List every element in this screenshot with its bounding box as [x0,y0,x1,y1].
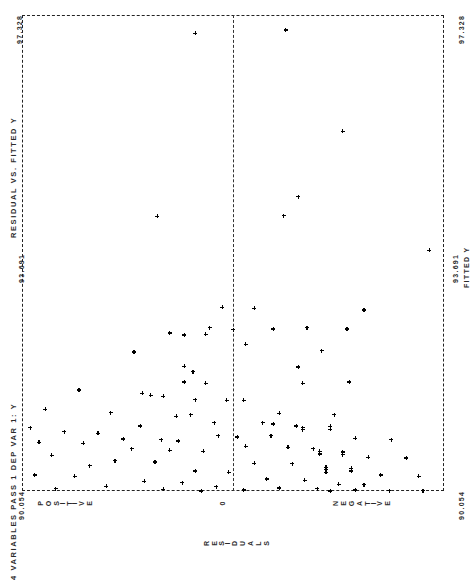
data-point [301,428,305,432]
data-point [341,129,345,133]
data-point [189,413,193,417]
data-point [271,327,275,331]
data-point [427,248,431,252]
scatter-plot-area [22,15,444,491]
data-point [168,448,172,452]
data-point [216,434,220,438]
data-point [362,483,366,487]
data-point [193,31,197,35]
data-point [252,461,256,465]
data-point [269,434,273,438]
data-point [212,421,216,425]
axis-char: D [231,541,238,546]
axis-char: S [262,541,269,546]
data-point [104,484,108,488]
data-point [96,431,100,435]
axis-char: A [356,501,363,506]
right-label-column: 97.328 93.691 FITTED Y 90.054 [444,0,472,584]
data-point [121,437,125,441]
data-point [387,489,391,493]
axis-char: E [211,541,218,546]
data-point [54,487,58,491]
data-point [320,349,324,353]
axis-char: 0 [219,502,226,506]
data-point [62,430,66,434]
data-point [282,214,286,218]
data-point [277,486,281,490]
data-point [180,481,184,485]
axis-char: V [78,501,85,506]
axis-char: G [348,501,355,506]
data-point [290,462,294,466]
data-point [220,305,224,309]
data-point [37,440,41,444]
data-point [214,485,218,489]
data-point [161,394,165,398]
data-point [286,445,290,449]
data-point [244,444,248,448]
data-point [161,487,165,491]
data-point [227,470,231,474]
data-point [337,482,341,486]
data-point [347,380,351,384]
data-point [176,439,180,443]
data-point [153,460,157,464]
data-point [77,388,81,392]
data-point [182,364,186,368]
data-point [138,424,142,428]
data-point [242,488,246,492]
data-point [315,487,319,491]
data-point [142,479,146,483]
data-point [345,327,349,331]
zero-reference-line [233,15,234,491]
axis-right-tick-max: 97.328 [458,15,465,44]
data-point [362,308,366,312]
axis-char: R [203,541,210,546]
data-point [318,452,322,456]
data-point [305,326,309,330]
axis-bottom-center-word: 0 [221,500,225,507]
data-point [324,470,328,474]
data-point [149,393,153,397]
data-point [199,489,203,493]
data-point [204,332,208,336]
axis-right-tick-mid: 93.691 [452,254,459,283]
axis-char: N [332,501,339,506]
report-header: 4 VARIABLES PASS 1 DEP VAR 1: Y [9,403,18,580]
data-point [328,427,332,431]
left-label-column: 97.328 RESIDUAL VS. FITTED Y 93.691 4 VA… [0,0,22,584]
data-point [404,456,408,460]
data-point [88,464,92,468]
data-point [417,474,421,478]
axis-right-tick-min: 90.054 [458,491,465,520]
data-point [265,477,269,481]
data-point [261,421,265,425]
axis-right-label: FITTED Y [463,247,470,288]
data-point [349,469,353,473]
data-point [303,478,307,482]
data-point [341,453,345,457]
data-point [182,333,186,337]
data-point [113,459,117,463]
data-point [28,426,32,430]
data-point [332,413,336,417]
data-point [43,407,47,411]
data-point [140,391,144,395]
data-point [109,411,113,415]
axis-char: E [340,501,347,506]
data-point [33,473,37,477]
axis-char: O [45,501,52,506]
data-point [353,436,357,440]
data-point [155,214,159,218]
data-point [204,381,208,385]
data-point [284,28,288,32]
data-point [73,474,77,478]
axis-char: A [247,541,254,546]
data-point [191,370,195,374]
data-point [294,424,298,428]
axis-left-tick-min: 90.054 [18,491,25,520]
data-point [182,380,186,384]
axis-bottom-right-word: NEGATIVE [333,500,390,507]
axis-char: U [239,541,246,546]
axis-char: E [85,501,92,506]
